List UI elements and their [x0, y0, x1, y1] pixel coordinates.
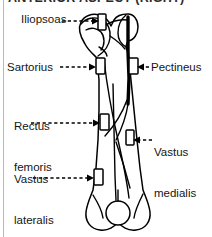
attachment-marker-vastus-medialis[interactable]	[126, 130, 134, 145]
attachment-marker-sartorius[interactable]	[96, 58, 105, 74]
label-vastus-lateralis: Vastus lateralis	[14, 146, 54, 237]
leader-sartorius	[60, 64, 96, 71]
figure-canvas: ANTERIOR ASPECT (RIGHT)	[0, 0, 212, 237]
label-vastus-medialis: Vastus medialis	[154, 119, 196, 227]
leader-pectineus	[137, 64, 149, 71]
attachment-marker-pectineus[interactable]	[129, 58, 138, 74]
label-sartorius: Sartorius	[7, 61, 53, 75]
label-vastus-medialis-line1: Vastus	[154, 146, 196, 160]
label-vastus-lateralis-line2: lateralis	[14, 214, 54, 228]
label-vastus-lateralis-line1: Vastus	[14, 173, 54, 187]
label-vastus-medialis-line2: medialis	[154, 187, 196, 201]
label-rectus-femoris-line1: Rectus	[14, 120, 52, 134]
attachment-marker-iliopsoas[interactable]	[98, 14, 106, 30]
attachment-marker-rectus-femoris[interactable]	[100, 114, 109, 130]
attachment-marker-vastus-lateralis[interactable]	[94, 169, 103, 185]
label-pectineus: Pectineus	[151, 61, 202, 75]
femur-bone-outline	[80, 14, 151, 230]
label-iliopsoas: Iliopsoas	[21, 13, 66, 27]
